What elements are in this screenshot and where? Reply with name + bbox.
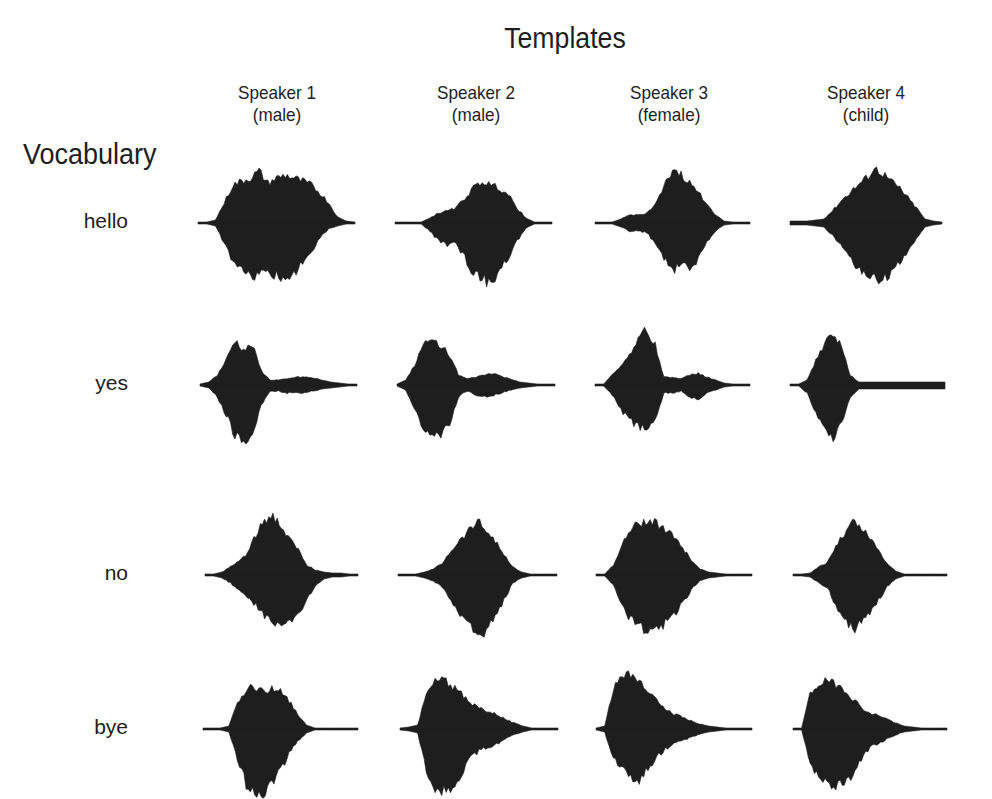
speaker-type: (child) bbox=[785, 104, 947, 126]
waveform-bye-speaker-2 bbox=[400, 659, 558, 799]
waveform-no-speaker-1 bbox=[205, 505, 358, 645]
waveform-yes-speaker-4 bbox=[790, 315, 945, 455]
waveform-no-speaker-3 bbox=[596, 505, 752, 645]
vocabulary-word-bye: bye bbox=[28, 715, 128, 739]
waveform-bye-speaker-4 bbox=[793, 659, 947, 799]
speaker-type: (male) bbox=[196, 104, 358, 126]
waveform-hello-speaker-4 bbox=[790, 153, 942, 293]
vocabulary-word-hello: hello bbox=[28, 209, 128, 233]
column-header-speaker-1: Speaker 1(male) bbox=[196, 82, 358, 126]
waveform-no-speaker-2 bbox=[398, 505, 557, 645]
vocabulary-title: Vocabulary bbox=[23, 137, 157, 171]
vocabulary-word-no: no bbox=[28, 561, 128, 585]
waveform-yes-speaker-2 bbox=[397, 315, 555, 455]
column-header-speaker-2: Speaker 2(male) bbox=[395, 82, 557, 126]
vocabulary-word-yes: yes bbox=[28, 371, 128, 395]
waveform-hello-speaker-2 bbox=[395, 153, 552, 293]
speaker-name: Speaker 3 bbox=[588, 82, 750, 104]
speaker-name: Speaker 1 bbox=[196, 82, 358, 104]
waveform-bye-speaker-1 bbox=[203, 659, 358, 799]
waveform-hello-speaker-1 bbox=[198, 153, 355, 293]
speaker-name: Speaker 2 bbox=[395, 82, 557, 104]
speaker-type: (male) bbox=[395, 104, 557, 126]
column-header-speaker-3: Speaker 3(female) bbox=[588, 82, 750, 126]
waveform-yes-speaker-1 bbox=[200, 315, 357, 455]
templates-title: Templates bbox=[40, 22, 953, 55]
waveform-yes-speaker-3 bbox=[595, 315, 750, 455]
waveform-no-speaker-4 bbox=[793, 505, 947, 645]
column-header-speaker-4: Speaker 4(child) bbox=[785, 82, 947, 126]
waveform-hello-speaker-3 bbox=[595, 153, 750, 293]
speaker-type: (female) bbox=[588, 104, 750, 126]
speaker-name: Speaker 4 bbox=[785, 82, 947, 104]
waveform-bye-speaker-3 bbox=[596, 659, 752, 799]
